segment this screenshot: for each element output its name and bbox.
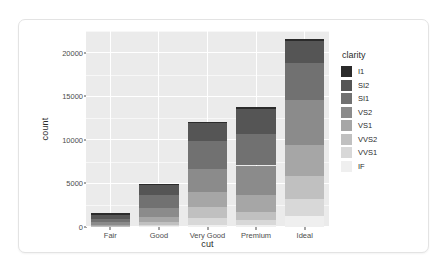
bar-segment-vs2[interactable]	[91, 222, 130, 224]
y-tick-label: 5000	[37, 179, 83, 188]
legend-label: VVS1	[358, 148, 377, 157]
stacked-bar-chart: count 05000100001500020000 FairGoodVery …	[19, 20, 430, 254]
bar-segment-vvs1[interactable]	[285, 199, 324, 217]
bar-segment-i1[interactable]	[236, 107, 275, 109]
legend-swatch-if	[341, 161, 352, 172]
bar-segment-i1[interactable]	[139, 184, 178, 185]
bar-segment-if[interactable]	[285, 216, 324, 227]
bar-segment-si2[interactable]	[285, 41, 324, 64]
legend-swatch-si1	[341, 93, 352, 104]
gridline-major-vertical	[110, 31, 111, 227]
bar-segment-vs1[interactable]	[91, 225, 130, 226]
y-tick-label: 10000	[37, 135, 83, 144]
bar-very-good[interactable]	[188, 122, 227, 227]
bar-segment-vvs2[interactable]	[236, 212, 275, 220]
bar-good[interactable]	[139, 184, 178, 227]
legend-swatch-si2	[341, 80, 352, 91]
x-axis-title: cut	[86, 239, 329, 249]
legend-item-vs1[interactable]: VS1	[341, 119, 423, 133]
bar-segment-vs2[interactable]	[139, 208, 178, 217]
bar-segment-vvs2[interactable]	[139, 222, 178, 224]
y-axis-ticks: 05000100001500020000	[37, 20, 83, 254]
bar-segment-vs1[interactable]	[236, 195, 275, 212]
x-tick-mark	[304, 227, 305, 230]
bar-premium[interactable]	[236, 107, 275, 227]
y-tick-label: 15000	[37, 92, 83, 101]
chart-card: count 05000100001500020000 FairGoodVery …	[18, 19, 429, 253]
legend-swatch-vvs1	[341, 147, 352, 158]
legend-swatch-vs2	[341, 107, 352, 118]
bar-segment-vvs1[interactable]	[236, 220, 275, 225]
bar-segment-si1[interactable]	[188, 141, 227, 169]
bar-ideal[interactable]	[285, 39, 324, 227]
bar-segment-si1[interactable]	[139, 195, 178, 209]
legend: clarity I1SI2SI1VS2VS1VVS2VVS1IF	[341, 50, 423, 173]
bar-segment-i1[interactable]	[285, 39, 324, 40]
bar-segment-vs2[interactable]	[285, 100, 324, 144]
y-tick-label: 0	[37, 223, 83, 232]
bar-segment-si2[interactable]	[236, 109, 275, 135]
x-tick-mark	[110, 227, 111, 230]
legend-item-if[interactable]: IF	[341, 160, 423, 174]
bar-segment-i1[interactable]	[91, 213, 130, 215]
bar-segment-si2[interactable]	[91, 215, 130, 219]
bar-fair[interactable]	[91, 213, 130, 227]
legend-items: I1SI2SI1VS2VS1VVS2VVS1IF	[341, 65, 423, 173]
bar-segment-vvs2[interactable]	[285, 176, 324, 199]
bar-segment-si2[interactable]	[139, 185, 178, 194]
legend-label: SI1	[358, 94, 369, 103]
legend-label: SI2	[358, 81, 369, 90]
plot-panel	[86, 31, 329, 227]
bar-segment-vs1[interactable]	[188, 192, 227, 207]
legend-item-vvs1[interactable]: VVS1	[341, 146, 423, 160]
legend-label: VS1	[358, 121, 372, 130]
bar-segment-vs2[interactable]	[236, 166, 275, 195]
legend-item-i1[interactable]: I1	[341, 65, 423, 79]
legend-label: VS2	[358, 108, 372, 117]
x-tick-mark	[158, 227, 159, 230]
bar-segment-si1[interactable]	[91, 219, 130, 223]
x-tick-mark	[207, 227, 208, 230]
legend-swatch-vs1	[341, 120, 352, 131]
bar-segment-vs1[interactable]	[285, 145, 324, 176]
bar-segment-i1[interactable]	[188, 122, 227, 123]
y-tick-label: 20000	[37, 48, 83, 57]
bar-segment-vs1[interactable]	[139, 217, 178, 223]
bar-segment-si1[interactable]	[285, 63, 324, 100]
legend-label: VVS2	[358, 135, 377, 144]
legend-item-vvs2[interactable]: VVS2	[341, 133, 423, 147]
legend-swatch-vvs2	[341, 134, 352, 145]
legend-item-vs2[interactable]: VS2	[341, 106, 423, 120]
legend-item-si1[interactable]: SI1	[341, 92, 423, 106]
bar-segment-vs2[interactable]	[188, 169, 227, 192]
legend-label: IF	[358, 162, 365, 171]
legend-title: clarity	[342, 50, 423, 60]
x-tick-mark	[256, 227, 257, 230]
bar-segment-vvs1[interactable]	[188, 218, 227, 225]
bar-segment-si1[interactable]	[236, 134, 275, 165]
legend-swatch-i1	[341, 66, 352, 77]
legend-item-si2[interactable]: SI2	[341, 79, 423, 93]
bar-segment-vvs2[interactable]	[188, 207, 227, 218]
bar-segment-si2[interactable]	[188, 123, 227, 141]
legend-label: I1	[358, 67, 364, 76]
